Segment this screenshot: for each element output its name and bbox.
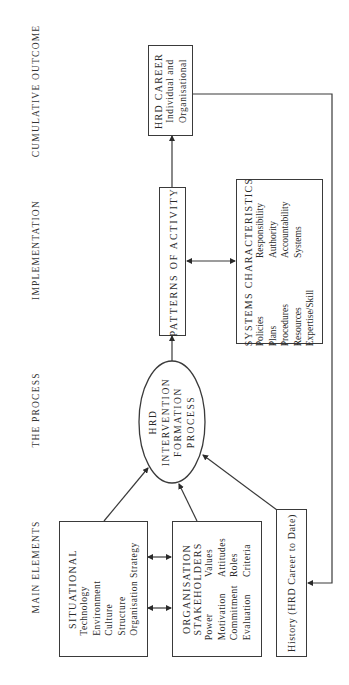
systems-item: Authority [266, 177, 279, 257]
header-implementation: IMPLEMENTATION [31, 200, 41, 300]
situational-title: SITUATIONAL [67, 542, 78, 635]
situational-box: SITUATIONAL Technology Environment Cultu… [59, 521, 148, 657]
hrd-intervention-line-1: HRD [147, 378, 160, 467]
stakeholders-item: Motivation [215, 585, 228, 640]
arrow-history-to-process [203, 455, 277, 510]
stakeholders-item: Criteria [241, 538, 254, 577]
hrd-intervention-line-2: INTERVENTION [160, 378, 173, 467]
hrd-career-title: HRD CAREER [152, 52, 163, 128]
situational-item: Technology [78, 542, 91, 635]
situational-list: Technology Environment Culture Structure… [78, 542, 141, 635]
arrow-stakeholders-to-process [179, 484, 197, 521]
systems-characteristics-content: SYSTEMS CHARACTERISTICS Policies Respons… [243, 177, 317, 346]
situational-item: Organisation Strategy [128, 542, 141, 635]
systems-item: Plans [266, 266, 279, 346]
systems-characteristics-list: Policies Responsibility Plans Authority … [254, 177, 317, 346]
systems-item: Responsibility [254, 177, 267, 257]
hrd-intervention-line-4: PROCESS [185, 378, 198, 467]
stakeholders-item: Values [203, 538, 216, 577]
header-cumulative-outcome: CUMULATIVE OUTCOME [31, 25, 41, 158]
hrd-intervention-text: HRD INTERVENTION FORMATION PROCESS [147, 378, 197, 467]
stakeholders-title-2: STAKEHOLDERS [192, 538, 203, 640]
history-title: History (HRD Career to Date) [285, 514, 298, 652]
systems-characteristics-box: SYSTEMS CHARACTERISTICS Policies Respons… [236, 179, 323, 344]
situational-item: Structure [115, 542, 128, 635]
header-the-process: THE PROCESS [31, 372, 41, 447]
systems-item: Systems [291, 177, 304, 257]
stakeholders-item: Evaluation [241, 585, 254, 640]
patterns-of-activity-title: PATTERNS OF ACTIVITY [167, 187, 178, 336]
stakeholders-list: Power Values Motivation Attitudes Commit… [203, 538, 253, 640]
stakeholders-title-1: ORGANISATION [181, 538, 192, 640]
systems-item: Procedures [279, 266, 292, 346]
situational-item: Environment [90, 542, 103, 635]
hrd-intervention-line-3: FORMATION [172, 378, 185, 467]
stakeholders-item: Power [203, 585, 216, 640]
situational-item: Culture [103, 542, 116, 635]
systems-item: Expertise/Skill [304, 266, 317, 346]
systems-item: Resources [291, 266, 304, 346]
stakeholders-item: Commitment [228, 585, 241, 640]
history-box: History (HRD Career to Date) [276, 509, 307, 657]
organisation-stakeholders-box: ORGANISATION STAKEHOLDERS Power Values M… [172, 521, 262, 657]
hrd-career-diagram: CUMULATIVE OUTCOME IMPLEMENTATION THE PR… [0, 0, 349, 685]
systems-item: Accountability [279, 177, 292, 257]
stakeholders-content: ORGANISATION STAKEHOLDERS Power Values M… [181, 538, 253, 640]
situational-content: SITUATIONAL Technology Environment Cultu… [67, 542, 141, 635]
systems-item [304, 177, 317, 257]
arrow-situational-to-process [104, 468, 148, 521]
systems-item: Policies [254, 266, 267, 346]
patterns-of-activity-box: PATTERNS OF ACTIVITY [159, 187, 186, 336]
systems-characteristics-title: SYSTEMS CHARACTERISTICS [243, 177, 254, 346]
hrd-career-content: HRD CAREER Individual and Organisational [152, 52, 188, 128]
header-main-elements: MAIN ELEMENTS [31, 521, 41, 614]
stakeholders-item: Roles [228, 538, 241, 577]
stakeholders-item: Attitudes [215, 538, 228, 577]
hrd-career-line-1: Individual and [163, 52, 176, 128]
hrd-career-line-2: Organisational [176, 52, 189, 128]
hrd-career-box: HRD CAREER Individual and Organisational [148, 45, 193, 136]
